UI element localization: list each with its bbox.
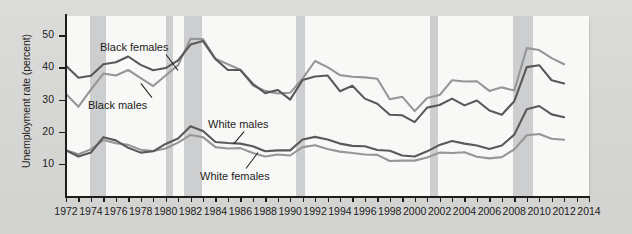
x-tick xyxy=(265,197,266,202)
x-tick xyxy=(489,197,490,202)
x-tick-label: 1984 xyxy=(204,205,227,217)
x-tick-label: 2012 xyxy=(552,205,575,217)
x-tick xyxy=(240,197,241,202)
x-tick xyxy=(328,197,329,202)
y-tick xyxy=(59,132,65,133)
x-tick-label: 1998 xyxy=(378,205,401,217)
x-tick xyxy=(91,197,92,202)
annotation-black-females: Black females xyxy=(100,41,168,53)
y-axis-line xyxy=(65,14,67,198)
x-tick xyxy=(103,197,104,202)
x-tick-label: 1992 xyxy=(303,205,326,217)
x-tick xyxy=(402,197,403,202)
x-tick xyxy=(589,197,590,202)
x-tick xyxy=(514,197,515,202)
x-tick xyxy=(178,197,179,202)
x-tick xyxy=(228,197,229,202)
x-tick-label: 1990 xyxy=(278,205,301,217)
y-tick-label: 10 xyxy=(36,157,54,169)
x-tick-label: 2002 xyxy=(428,205,451,217)
annotation-white-females: White females xyxy=(200,170,270,182)
y-tick xyxy=(59,35,65,36)
x-tick xyxy=(539,197,540,202)
x-tick xyxy=(253,197,254,202)
y-tick xyxy=(59,67,65,68)
x-tick xyxy=(203,197,204,202)
x-tick xyxy=(215,197,216,202)
x-tick-label: 2004 xyxy=(453,205,476,217)
x-tick-label: 1978 xyxy=(129,205,152,217)
series-line-white-females xyxy=(66,134,564,161)
x-tick xyxy=(577,197,578,202)
annotation-black-males: Black males xyxy=(88,99,147,111)
x-tick xyxy=(290,197,291,202)
x-tick xyxy=(415,197,416,202)
x-tick-label: 1974 xyxy=(79,205,102,217)
y-tick xyxy=(59,164,65,165)
x-tick xyxy=(153,197,154,202)
x-tick xyxy=(527,197,528,202)
x-tick-label: 1986 xyxy=(229,205,252,217)
x-tick xyxy=(352,197,353,202)
x-tick-label: 1982 xyxy=(179,205,202,217)
y-axis-title: Unemployment rate (percent) xyxy=(20,6,32,196)
x-tick-label: 2006 xyxy=(478,205,501,217)
y-tick-label: 50 xyxy=(36,28,54,40)
x-tick xyxy=(390,197,391,202)
y-tick-label: 20 xyxy=(36,125,54,137)
x-tick xyxy=(78,197,79,202)
x-tick xyxy=(128,197,129,202)
x-tick-label: 1994 xyxy=(328,205,351,217)
x-tick xyxy=(502,197,503,202)
x-tick-label: 1976 xyxy=(104,205,127,217)
y-tick-label: 30 xyxy=(36,93,54,105)
x-tick xyxy=(427,197,428,202)
x-tick-label: 2008 xyxy=(503,205,526,217)
x-tick-label: 1996 xyxy=(353,205,376,217)
x-tick-label: 1972 xyxy=(54,205,77,217)
x-tick-label: 2014 xyxy=(577,205,600,217)
x-tick xyxy=(564,197,565,202)
x-tick xyxy=(116,197,117,202)
x-tick-label: 1980 xyxy=(154,205,177,217)
x-tick xyxy=(315,197,316,202)
x-tick-label: 2000 xyxy=(403,205,426,217)
x-tick xyxy=(464,197,465,202)
x-tick xyxy=(278,197,279,202)
annotation-white-males: White males xyxy=(208,118,269,130)
x-tick xyxy=(141,197,142,202)
x-tick xyxy=(440,197,441,202)
y-tick xyxy=(59,100,65,101)
x-tick xyxy=(452,197,453,202)
x-tick-label: 1988 xyxy=(254,205,277,217)
unemployment-rate-chart: Unemployment rate (percent) 1020304050 1… xyxy=(0,0,632,234)
x-tick xyxy=(477,197,478,202)
x-tick xyxy=(66,197,67,202)
x-tick-label: 2010 xyxy=(528,205,551,217)
x-tick xyxy=(365,197,366,202)
x-tick xyxy=(552,197,553,202)
x-tick xyxy=(166,197,167,202)
x-tick xyxy=(191,197,192,202)
x-tick xyxy=(340,197,341,202)
x-tick xyxy=(377,197,378,202)
y-tick-label: 40 xyxy=(36,60,54,72)
x-tick xyxy=(303,197,304,202)
